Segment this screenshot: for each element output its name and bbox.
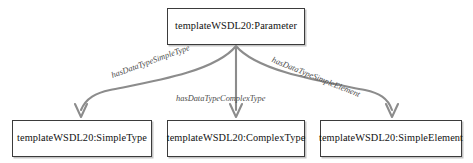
node-complextype-label: templateWSDL20:ComplexType [167, 133, 306, 143]
node-simpletype[interactable]: templateWSDL20:SimpleType [12, 120, 152, 157]
node-parameter-label: templateWSDL20:Parameter [175, 21, 297, 31]
diagram-canvas: templateWSDL20:Parameter templateWSDL20:… [0, 0, 473, 163]
edge-complextype [230, 46, 242, 117]
node-complextype[interactable]: templateWSDL20:ComplexType [167, 120, 305, 157]
edge-label-has-data-type-complex-type: hasDataTypeComplexType [176, 95, 265, 103]
node-parameter[interactable]: templateWSDL20:Parameter [167, 8, 305, 45]
node-simpletype-label: templateWSDL20:SimpleType [17, 133, 147, 143]
node-simpleelement-label: templateWSDL20:SimpleElement [319, 133, 463, 143]
node-simpleelement[interactable]: templateWSDL20:SimpleElement [320, 120, 462, 157]
